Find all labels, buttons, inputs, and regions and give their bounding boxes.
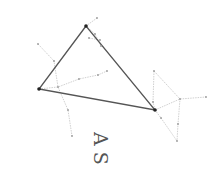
faint-star [100,45,102,47]
faint-star [96,17,98,19]
faint-star [94,33,96,35]
faint-star [153,70,155,72]
faint-star [78,78,80,80]
faint-star [160,117,162,119]
bright-star [37,87,41,91]
constellation-line [89,38,100,40]
constellation-line [86,18,97,26]
faint-star [176,140,178,142]
faint-star [37,43,39,45]
faint-star [152,101,154,103]
faint-star [57,86,59,88]
faint-star [53,60,55,62]
faint-star [99,39,101,41]
faint-star [88,37,90,39]
diagram-title: A S [90,132,112,165]
faint-star [106,70,108,72]
constellation-line [153,71,155,110]
faint-star [205,96,207,98]
faint-star [179,98,181,100]
faint-star [97,74,99,76]
bright-star [153,108,157,112]
constellation-line [155,110,177,141]
faint-star [67,109,69,111]
bright-star [84,24,88,28]
constellation-line [39,71,107,89]
triangle [39,26,155,110]
constellation-lines [38,18,206,141]
faint-stars [37,17,207,142]
constellation-line [154,71,180,141]
faint-star [71,135,73,137]
faint-star [177,123,179,125]
